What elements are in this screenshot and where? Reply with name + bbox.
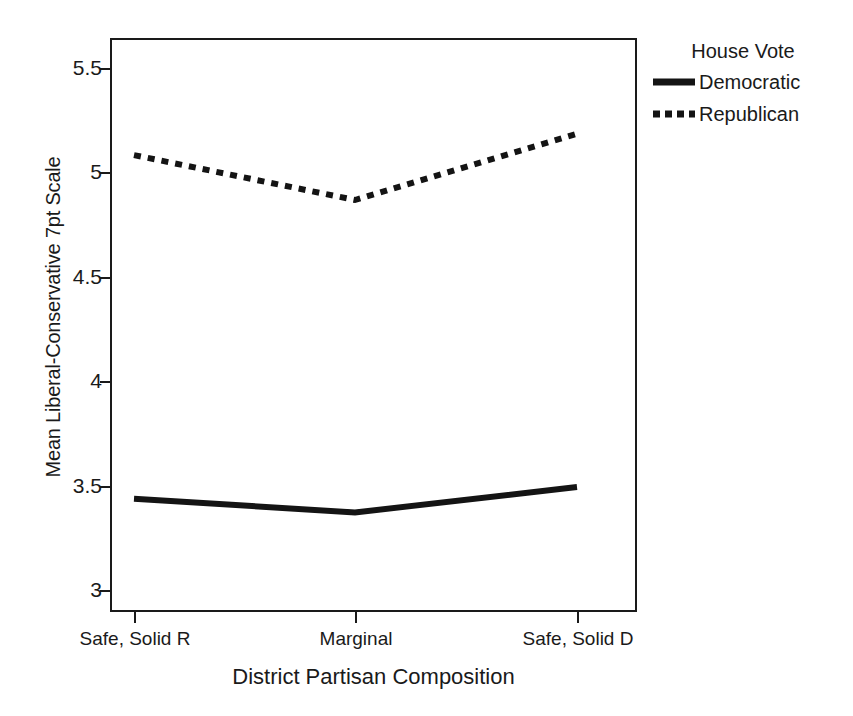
series-line-democratic — [134, 487, 577, 512]
y-tick-mark — [100, 172, 110, 174]
x-tick-label: Marginal — [320, 628, 393, 650]
legend-item-democratic: Democratic — [652, 69, 852, 95]
legend-label-republican: Republican — [699, 103, 799, 126]
x-tick-label: Safe, Solid D — [523, 628, 634, 650]
series-line-republican — [134, 134, 577, 200]
legend-label-democratic: Democratic — [699, 71, 800, 94]
y-tick-label: 3 — [58, 578, 102, 602]
plot-series-layer — [110, 38, 637, 612]
dotted-line-swatch — [652, 103, 696, 125]
x-tick-label: Safe, Solid R — [80, 628, 191, 650]
y-tick-label: 4.5 — [58, 265, 102, 289]
y-tick-mark — [100, 590, 110, 592]
x-tick-mark — [577, 612, 579, 623]
x-tick-mark — [355, 612, 357, 623]
y-tick-label: 3.5 — [58, 474, 102, 498]
legend: House Vote Democratic Republican — [652, 40, 852, 127]
y-tick-label: 5 — [58, 160, 102, 184]
y-tick-mark — [100, 277, 110, 279]
line-chart: Mean Liberal-Conservative 7pt Scale 5.5 … — [0, 0, 853, 716]
legend-title: House Vote — [652, 40, 834, 63]
legend-item-republican: Republican — [652, 101, 852, 127]
y-tick-mark — [100, 381, 110, 383]
x-tick-mark — [134, 612, 136, 623]
y-tick-label: 5.5 — [58, 56, 102, 80]
y-tick-label: 4 — [58, 369, 102, 393]
y-tick-mark — [100, 486, 110, 488]
y-tick-mark — [100, 68, 110, 70]
y-axis-tick-labels: 5.5 5 4.5 4 3.5 3 — [58, 0, 102, 716]
x-axis-title: District Partisan Composition — [110, 664, 637, 690]
solid-line-swatch — [652, 71, 696, 93]
